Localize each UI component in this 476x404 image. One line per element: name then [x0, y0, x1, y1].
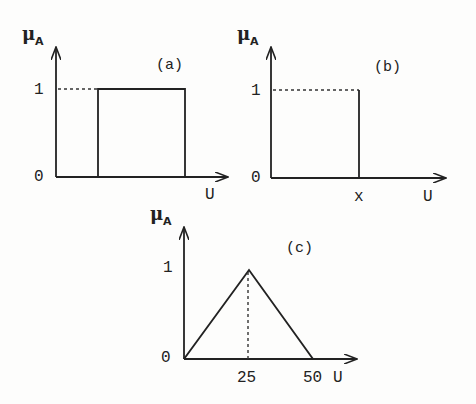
panel-label: (a) [156, 57, 183, 74]
panel-b: μ A (b) 1 0 x U [237, 23, 446, 206]
x-marker-label: x [354, 188, 364, 206]
y-tick-0: 0 [251, 169, 261, 187]
membership-functions-figure: μ A (a) 1 0 U μ A (b) 1 0 x U μ A (c) 1 … [0, 0, 476, 404]
y-axis-subscript: A [35, 35, 44, 48]
panel-label: (c) [286, 240, 313, 257]
y-axis-subscript: A [163, 215, 172, 228]
y-tick-0: 0 [161, 349, 171, 367]
y-tick-1: 1 [34, 81, 44, 99]
y-axis-label: μ [150, 203, 163, 224]
rectangle-membership [98, 89, 185, 177]
panel-a: μ A (a) 1 0 U [22, 23, 228, 204]
y-tick-1: 1 [251, 82, 261, 100]
x-axis-label: U [333, 369, 343, 387]
panel-c: μ A (c) 1 0 25 50 U [150, 203, 357, 387]
y-axis-label: μ [22, 23, 35, 44]
y-axis-label: μ [237, 23, 250, 44]
y-axis-subscript: A [250, 35, 259, 48]
x-axis-label: U [423, 188, 433, 206]
panel-label: (b) [374, 59, 401, 76]
y-tick-1: 1 [163, 259, 173, 277]
x-tick-50: 50 [303, 369, 322, 387]
y-tick-0: 0 [34, 168, 44, 186]
x-tick-25: 25 [237, 369, 256, 387]
x-axis-label: U [205, 186, 215, 204]
